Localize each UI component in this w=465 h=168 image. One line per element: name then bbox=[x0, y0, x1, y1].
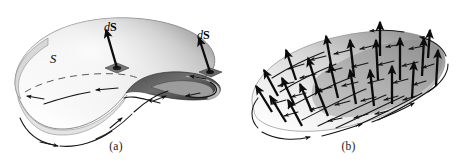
surface-body-b bbox=[252, 31, 445, 131]
caption-b: (b) bbox=[232, 140, 465, 152]
figure-root: dS dS S (a) bbox=[0, 0, 465, 168]
caption-a: (a) bbox=[0, 140, 232, 152]
label-surface-s: S bbox=[50, 52, 56, 67]
label-ds-2-symbol: S bbox=[203, 28, 210, 42]
label-ds-2: dS bbox=[197, 28, 210, 43]
label-ds-1-symbol: S bbox=[110, 20, 117, 34]
panel-a: dS dS S (a) bbox=[0, 0, 232, 168]
panel-b: (b) bbox=[232, 0, 465, 168]
label-ds-1: dS bbox=[104, 20, 117, 35]
